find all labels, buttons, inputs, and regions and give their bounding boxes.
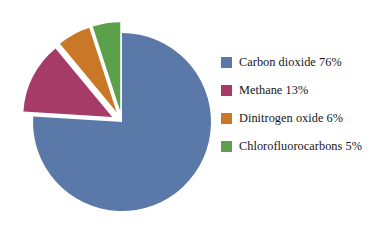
- legend-item-carbon-dioxide[interactable]: Carbon dioxide 76%: [221, 48, 376, 76]
- legend-label-dinitrogen-oxide: Dinitrogen oxide 6%: [239, 112, 343, 125]
- legend-label-chlorofluorocarbons: Chlorofluorocarbons 5%: [239, 140, 362, 153]
- legend-item-dinitrogen-oxide[interactable]: Dinitrogen oxide 6%: [221, 104, 376, 132]
- legend-item-chlorofluorocarbons[interactable]: Chlorofluorocarbons 5%: [221, 132, 376, 160]
- legend-label-methane: Methane 13%: [239, 84, 308, 97]
- legend-swatch-methane: [221, 85, 232, 96]
- legend-swatch-dinitrogen-oxide: [221, 113, 232, 124]
- pie-slice-group: [23, 22, 211, 211]
- chart-legend: Carbon dioxide 76% Methane 13% Dinitroge…: [221, 48, 376, 160]
- legend-label-carbon-dioxide: Carbon dioxide 76%: [239, 56, 342, 69]
- legend-item-methane[interactable]: Methane 13%: [221, 76, 376, 104]
- legend-swatch-chlorofluorocarbons: [221, 141, 232, 152]
- pie-chart-figure: Carbon dioxide 76% Methane 13% Dinitroge…: [0, 0, 376, 227]
- legend-swatch-carbon-dioxide: [221, 57, 232, 68]
